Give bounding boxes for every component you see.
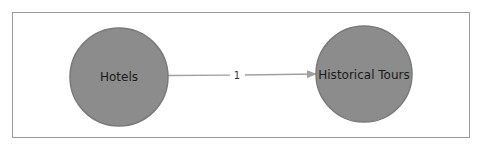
edge-weight-label: 1 [234, 70, 240, 81]
graph-canvas: 1 Hotels Historical Tours [0, 0, 479, 147]
node-label-historical-tours: Historical Tours [318, 68, 409, 82]
node-label-hotels: Hotels [100, 70, 138, 84]
node-hotels[interactable]: Hotels [70, 28, 168, 126]
node-historical-tours[interactable]: Historical Tours [316, 26, 412, 122]
